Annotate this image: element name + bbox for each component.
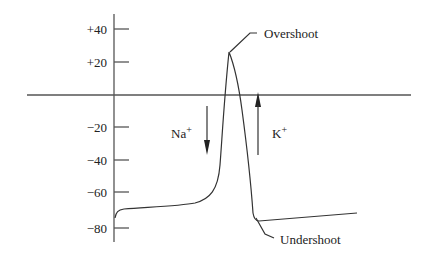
arrow-up-icon bbox=[255, 92, 261, 107]
sodium-ion-label: Na+ bbox=[171, 124, 192, 141]
tick-label-minus20: −20 bbox=[87, 120, 107, 135]
tick-label-minus80: −80 bbox=[87, 221, 107, 236]
action-potential-diagram: +40 +20 −20 −40 −60 −80 Overshoot Unders… bbox=[0, 0, 431, 258]
tick-label-plus20: +20 bbox=[87, 55, 107, 70]
undershoot-label: Undershoot bbox=[280, 232, 341, 247]
y-tick-labels: +40 +20 −20 −40 −60 −80 bbox=[87, 22, 107, 236]
sodium-arrow bbox=[204, 106, 210, 155]
overshoot-label: Overshoot bbox=[264, 26, 319, 41]
overshoot-leader-line bbox=[230, 33, 257, 52]
tick-label-minus40: −40 bbox=[87, 153, 107, 168]
y-ticks bbox=[114, 29, 129, 228]
tick-label-plus40: +40 bbox=[87, 22, 107, 37]
potassium-ion-label: K+ bbox=[272, 124, 287, 141]
potassium-arrow bbox=[255, 92, 261, 155]
arrow-down-icon bbox=[204, 140, 210, 155]
action-potential-curve bbox=[115, 52, 357, 221]
tick-label-minus60: −60 bbox=[87, 185, 107, 200]
